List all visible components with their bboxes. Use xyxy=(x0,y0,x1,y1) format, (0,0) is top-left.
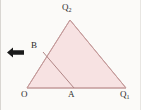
vertex-label-q2-base: Q xyxy=(62,2,69,12)
vertex-label-q2-subscript: 2 xyxy=(69,7,72,13)
vertex-label-q1: Q1 xyxy=(120,90,130,99)
geometry-figure: O A B Q1 Q2 xyxy=(0,0,141,110)
vertex-label-a: A xyxy=(68,90,75,99)
vertex-label-q1-subscript: 1 xyxy=(127,94,130,100)
triangle-O-Q1-Q2 xyxy=(27,20,126,88)
vertex-label-q1-base: Q xyxy=(120,89,127,99)
vertex-label-origin: O xyxy=(21,90,28,99)
vertex-label-b: B xyxy=(31,41,37,50)
left-arrow-icon xyxy=(6,46,26,59)
vertex-label-q2: Q2 xyxy=(62,3,72,12)
